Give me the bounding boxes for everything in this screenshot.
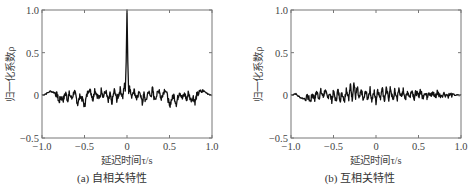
- y-tick-label: 0.5: [26, 48, 39, 59]
- x-tick-labels: −1.0−0.500.51.0: [281, 10, 467, 152]
- x-tick-label: 0: [373, 141, 378, 152]
- y-axis-label: 归一化系数ρ: [4, 46, 16, 101]
- x-tick-label: −0.5: [75, 141, 94, 152]
- x-axis-label: 延迟时间τ/s: [101, 154, 152, 166]
- x-tick-label: 0.5: [163, 141, 176, 152]
- y-tick-label: 0.5: [275, 48, 288, 59]
- x-tick-label: −1.0: [281, 141, 300, 152]
- axes-frame: [291, 10, 461, 138]
- x-tick-label: −0.5: [324, 141, 343, 152]
- y-axis-label: 归一化系数ρ: [252, 46, 264, 101]
- figure: −0.500.51.0 −1.0−0.500.51.0 归一化系数ρ 延迟时间τ…: [0, 0, 472, 189]
- plot-area: [42, 10, 212, 107]
- caption: (b) 互相关特性: [325, 171, 396, 185]
- data-line: [42, 10, 212, 107]
- x-tick-label: 0.5: [412, 141, 425, 152]
- y-tick-label: 1.0: [275, 5, 288, 16]
- chart-autocorrelation: −0.500.51.0 −1.0−0.500.51.0 归一化系数ρ 延迟时间τ…: [4, 5, 219, 185]
- y-tick-label: 0: [34, 90, 39, 101]
- chart-crosscorrelation: −0.500.51.0 −1.0−0.500.51.0 归一化系数ρ 延迟时间τ…: [252, 5, 468, 185]
- y-tick-label: 0: [283, 90, 288, 101]
- data-line: [291, 83, 461, 105]
- y-tick-labels: −0.500.51.0: [269, 5, 461, 144]
- y-tick-labels: −0.500.51.0: [20, 5, 212, 144]
- x-axis-label: 延迟时间τ/s: [350, 154, 401, 166]
- caption: (a) 自相关特性: [77, 171, 147, 185]
- x-tick-label: 1.0: [205, 141, 218, 152]
- x-tick-label: −1.0: [32, 141, 51, 152]
- x-tick-label: 1.0: [454, 141, 467, 152]
- y-tick-label: 1.0: [26, 5, 39, 16]
- x-tick-label: 0: [124, 141, 129, 152]
- plot-area: [291, 83, 461, 105]
